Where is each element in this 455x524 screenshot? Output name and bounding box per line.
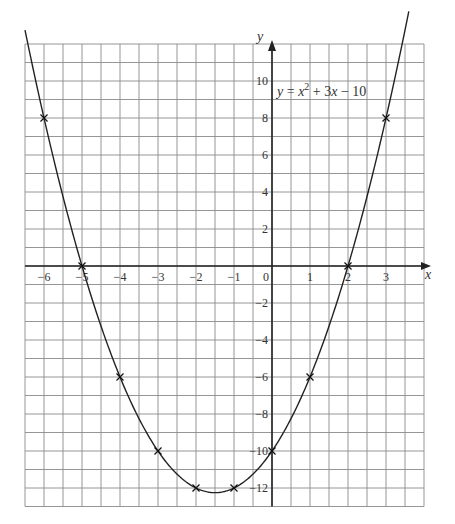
- eq-minus-10: − 10: [337, 84, 366, 99]
- x-tick-label: −6: [38, 270, 51, 284]
- y-tick-label: 6: [262, 148, 268, 162]
- x-tick-label: −3: [152, 270, 165, 284]
- graph-canvas: −6−5−4−3−2−10123108642−2−4−6−8−10−12 x y…: [0, 0, 455, 524]
- equation-label: y = x2 + 3x − 10: [275, 81, 366, 99]
- x-axis-label: x: [424, 267, 432, 282]
- x-tick-label: 0: [263, 270, 269, 284]
- y-tick-label: 8: [262, 111, 268, 125]
- x-tick-label: −2: [190, 270, 203, 284]
- y-tick-label: −12: [249, 481, 268, 495]
- x-tick-label: 3: [383, 270, 389, 284]
- y-tick-label: −2: [255, 296, 268, 310]
- y-tick-label: 10: [256, 74, 268, 88]
- x-tick-label: −1: [228, 270, 241, 284]
- y-tick-label: −10: [249, 444, 268, 458]
- x-tick-label: −4: [114, 270, 127, 284]
- y-tick-label: −6: [255, 370, 268, 384]
- y-axis-arrow-icon: [268, 40, 276, 51]
- x-tick-label: 1: [307, 270, 313, 284]
- y-tick-label: 4: [262, 185, 268, 199]
- quadratic-graph: −6−5−4−3−2−10123108642−2−4−6−8−10−12 x y…: [0, 0, 455, 524]
- y-tick-label: 2: [262, 222, 268, 236]
- y-axis-label: y: [255, 29, 264, 44]
- y-tick-label: −8: [255, 407, 268, 421]
- eq-equals: =: [283, 84, 298, 99]
- eq-plus-3: + 3: [309, 84, 331, 99]
- y-tick-label: −4: [255, 333, 268, 347]
